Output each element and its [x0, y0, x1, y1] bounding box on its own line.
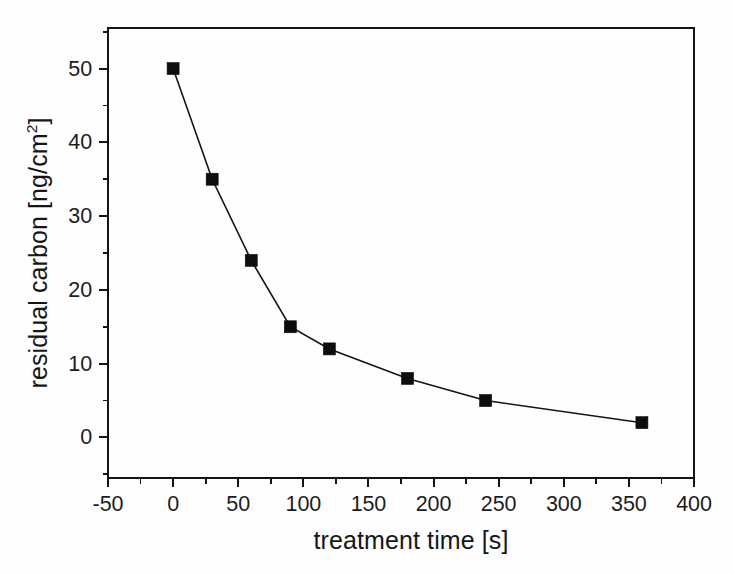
- x-tick-label: 350: [611, 492, 647, 517]
- y-tick-label: 30: [68, 204, 92, 229]
- y-tick-label: 0: [80, 425, 92, 450]
- data-point-marker: [480, 395, 492, 407]
- data-point-marker: [167, 63, 179, 75]
- y-tick-label: 50: [68, 56, 92, 81]
- x-tick-label: 400: [676, 492, 712, 517]
- data-point-marker: [636, 417, 648, 429]
- x-tick-label: 0: [167, 492, 179, 517]
- x-tick-label: 300: [546, 492, 582, 517]
- data-series-line: [173, 69, 642, 423]
- data-point-marker: [245, 254, 257, 266]
- y-axis-title: residual carbon [ng/cm2]: [24, 118, 53, 389]
- chart-figure: -50050100150200250300350400 01020304050 …: [0, 0, 733, 574]
- x-axis-title: treatment time [s]: [314, 526, 509, 555]
- series-polyline-residual-carbon: [173, 69, 642, 423]
- plot-canvas: [0, 0, 733, 574]
- data-point-marker: [402, 372, 414, 384]
- y-axis-title-superscript: 2: [23, 125, 40, 134]
- y-tick-label: 20: [68, 277, 92, 302]
- x-tick-label: -50: [93, 492, 124, 517]
- x-tick-label: 250: [481, 492, 517, 517]
- y-tick-label: 10: [68, 351, 92, 376]
- data-point-markers: [167, 63, 648, 429]
- minor-tick-group: [103, 32, 662, 484]
- y-tick-label: 40: [68, 130, 92, 155]
- x-tick-label: 50: [226, 492, 250, 517]
- x-tick-label: 200: [416, 492, 452, 517]
- data-point-marker: [206, 173, 218, 185]
- major-tick-group: [99, 69, 694, 487]
- data-point-marker: [323, 343, 335, 355]
- axes-frame: [108, 28, 694, 478]
- x-tick-label: 150: [351, 492, 387, 517]
- plot-frame: [108, 28, 694, 478]
- x-tick-label: 100: [286, 492, 322, 517]
- data-point-marker: [284, 321, 296, 333]
